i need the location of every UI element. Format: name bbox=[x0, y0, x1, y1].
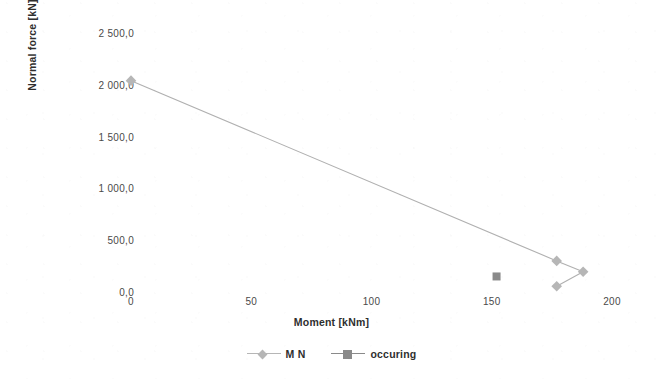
legend-entry-1[interactable]: M N bbox=[247, 348, 306, 360]
data-point-marker bbox=[493, 272, 501, 280]
legend-swatch bbox=[331, 348, 365, 360]
series-2 bbox=[493, 272, 501, 280]
diamond-marker-icon bbox=[257, 350, 267, 360]
series-layer bbox=[126, 75, 589, 291]
data-point-marker bbox=[578, 266, 589, 277]
chart-figure: Normal force [kN] 0,0500,01 000,01 500,0… bbox=[0, 0, 663, 379]
legend-swatch bbox=[247, 348, 281, 360]
legend-entry-2[interactable]: occuring bbox=[331, 348, 416, 360]
series-1 bbox=[126, 75, 589, 291]
series-line bbox=[131, 81, 583, 287]
chart-legend: M Noccuring bbox=[0, 348, 663, 360]
legend-label: occuring bbox=[370, 348, 416, 360]
x-axis-title: Moment [kNm] bbox=[0, 316, 663, 328]
data-point-marker bbox=[551, 256, 562, 267]
data-point-marker bbox=[551, 281, 562, 292]
legend-label: M N bbox=[286, 348, 306, 360]
data-point-marker bbox=[126, 75, 137, 86]
square-marker-icon bbox=[343, 350, 352, 359]
